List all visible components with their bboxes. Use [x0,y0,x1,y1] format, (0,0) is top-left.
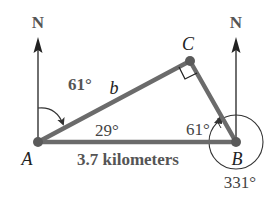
bearing-arc-a [38,108,63,124]
bearing-label-b: 331° [224,173,256,192]
north-arrow-a: N [32,13,45,142]
bearing-label-a: 61° [68,75,92,94]
north-label-b: N [230,13,243,32]
north-label-a: N [32,13,45,32]
angle-label-b: 61° [186,120,210,139]
point-label-a: A [21,149,34,169]
bearing-diagram: N N A B C b 3.7 kilometers 61° 29° 61° 3… [0,0,275,202]
vertex-b [231,137,241,147]
point-label-c: C [182,34,195,54]
side-label-ab: 3.7 kilometers [77,150,179,169]
point-label-b: B [232,149,243,169]
angle-label-a: 29° [95,121,119,140]
vertex-c [185,56,195,66]
vertex-a [33,137,43,147]
north-arrow-b: N [230,13,243,142]
side-label-b: b [110,78,119,98]
